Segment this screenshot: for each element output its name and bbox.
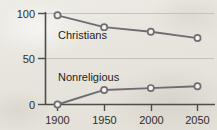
- chart-figure: 100 50 0 1900 1950 2000 2050 Christians …: [0, 0, 217, 130]
- series-nonreligious-line: [58, 86, 198, 104]
- y-tick-label-0: 0: [29, 99, 35, 111]
- x-tick-label-1900: 1900: [45, 114, 69, 126]
- data-point: [148, 29, 154, 35]
- data-point: [194, 83, 200, 89]
- data-point: [54, 101, 60, 107]
- series-label-nonreligious: Nonreligious: [58, 71, 120, 83]
- line-chart: 100 50 0 1900 1950 2000 2050 Christians …: [0, 0, 217, 130]
- series-label-christians: Christians: [58, 29, 107, 41]
- data-point: [101, 87, 107, 93]
- y-tick-label-50: 50: [23, 53, 35, 65]
- x-axis-ticks: [58, 105, 198, 112]
- y-axis-ticks: [38, 14, 45, 105]
- data-point: [148, 85, 154, 91]
- data-point: [194, 35, 200, 41]
- x-tick-label-2000: 2000: [139, 114, 163, 126]
- x-tick-label-2050: 2050: [185, 114, 209, 126]
- y-tick-label-100: 100: [17, 8, 35, 20]
- x-tick-label-1950: 1950: [92, 114, 116, 126]
- data-point: [54, 12, 60, 18]
